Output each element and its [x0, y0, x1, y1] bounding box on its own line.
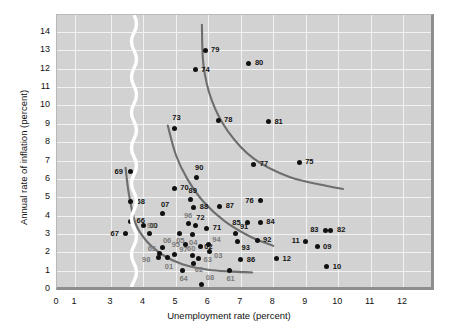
gridline-x-10 — [338, 15, 339, 287]
data-point-label: 73 — [172, 114, 180, 122]
x-axis-title: Unemployment rate (percent) — [0, 310, 458, 321]
data-point-label: 62 — [195, 266, 203, 274]
data-point-label: 60 — [187, 245, 195, 253]
data-point-label: 93 — [242, 244, 250, 252]
data-point-label: 09 — [323, 243, 331, 251]
data-point — [177, 231, 182, 236]
data-point — [216, 118, 221, 123]
data-point-label: 77 — [260, 160, 268, 168]
gridline-x-12 — [403, 15, 404, 287]
data-point-label: 81 — [274, 118, 282, 126]
data-point — [258, 220, 263, 225]
data-point-label: 63 — [204, 256, 212, 264]
data-point-label: 69 — [114, 168, 122, 176]
data-point — [303, 239, 308, 244]
x-tick-label-8: 8 — [270, 297, 275, 306]
data-point-label: 79 — [211, 46, 219, 54]
data-point — [328, 228, 333, 233]
data-point — [297, 160, 302, 165]
data-point-label: 74 — [201, 66, 209, 74]
x-tick-label-12: 12 — [397, 297, 407, 306]
gridline-x-11 — [371, 15, 372, 287]
data-point — [255, 238, 260, 243]
data-point — [233, 231, 238, 236]
gridline-y-5 — [57, 197, 431, 198]
y-tick-label-8: 8 — [32, 137, 50, 146]
gridline-y-6 — [57, 179, 431, 180]
data-point — [199, 282, 204, 287]
x-tick-label-4: 4 — [140, 297, 145, 306]
y-tick-label-6: 6 — [32, 173, 50, 182]
data-point — [190, 253, 195, 258]
data-point — [172, 186, 177, 191]
data-point-label: 64 — [179, 275, 187, 283]
gridline-y-2 — [57, 252, 431, 253]
data-point — [196, 256, 201, 261]
data-point — [251, 162, 256, 167]
data-point-label: 12 — [282, 255, 290, 263]
y-tick-label-5: 5 — [32, 192, 50, 201]
data-point-label: 99 — [147, 222, 155, 230]
data-point-label: 83 — [310, 226, 318, 234]
data-point — [193, 67, 198, 72]
data-point-label: 75 — [305, 158, 313, 166]
data-point-label: 03 — [214, 252, 222, 260]
x-tick-label-3: 3 — [107, 297, 112, 306]
x-tick-label-11: 11 — [365, 297, 374, 306]
y-tick-label-11: 11 — [32, 82, 50, 91]
data-point-label: 71 — [213, 224, 221, 232]
gridline-x-1 — [75, 15, 76, 287]
gridline-y-7 — [57, 161, 431, 162]
data-point-label: 67 — [111, 230, 119, 238]
data-point — [246, 61, 251, 66]
gridline-y-13 — [57, 50, 431, 51]
data-point-label: 84 — [266, 218, 274, 226]
data-point — [238, 257, 243, 262]
gridline-y-10 — [57, 105, 431, 106]
data-point-label: 11 — [292, 237, 300, 245]
plot-area: 7974807378817775699070688988870776660096… — [57, 15, 431, 287]
y-axis-title: Annual rate of inflation (percent) — [18, 73, 29, 243]
x-tick-label-1: 1 — [71, 297, 76, 306]
data-point — [191, 205, 196, 210]
data-point-label: 01 — [165, 263, 173, 271]
data-point — [172, 252, 177, 257]
data-point-label: 07 — [161, 201, 169, 209]
data-point — [160, 245, 165, 250]
y-tick-label-14: 14 — [32, 27, 50, 36]
gridline-y-4 — [57, 216, 431, 217]
data-point — [203, 48, 208, 53]
data-point — [180, 268, 185, 273]
data-point — [156, 255, 161, 260]
gridline-x-9 — [306, 15, 307, 287]
data-point — [147, 231, 152, 236]
data-point — [227, 268, 232, 273]
data-point-label: 90 — [195, 164, 203, 172]
data-point-label: 06 — [163, 237, 171, 245]
y-tick-label-13: 13 — [32, 45, 50, 54]
data-point-label: 91 — [240, 223, 248, 231]
data-point-label: 80 — [255, 59, 263, 67]
data-point-label: 08 — [206, 274, 214, 282]
data-point — [165, 255, 170, 260]
x-tick-label-7: 7 — [237, 297, 242, 306]
x-tick-label-10: 10 — [332, 297, 342, 306]
x-tick-label-5: 5 — [172, 297, 177, 306]
data-point — [186, 221, 191, 226]
x-tick-label-6: 6 — [205, 297, 210, 306]
gridline-y-12 — [57, 69, 431, 70]
data-point — [190, 232, 195, 237]
data-point — [235, 239, 240, 244]
x-tick-label-0: 0 — [53, 297, 58, 306]
y-tick-label-2: 2 — [32, 247, 50, 256]
phillips-curve-figure: 7974807378817775699070688988870776660096… — [0, 0, 458, 328]
data-point-label: 94 — [212, 236, 220, 244]
data-point — [324, 264, 329, 269]
data-point-label: 82 — [337, 226, 345, 234]
data-point — [323, 228, 328, 233]
data-point-label: 10 — [333, 263, 341, 271]
data-point-label: 98 — [142, 256, 150, 264]
data-point-label: 65 — [148, 245, 156, 253]
gridline-y-14 — [57, 32, 431, 33]
gridline-y-11 — [57, 87, 431, 88]
